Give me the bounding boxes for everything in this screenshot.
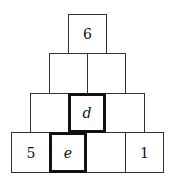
pyramid-cell-r2-c2 [87,53,126,94]
pyramid-cell-r4-c1: 5 [11,132,51,173]
pyramid-cell-top: 6 [68,14,107,54]
pyramid-cell-r4-c4: 1 [125,132,164,173]
pyramid-cell-r2-c1 [49,53,88,94]
pyramid-cell-e: e [49,132,87,173]
pyramid-cell-r3-c1 [30,93,69,133]
pyramid-cell-d: d [68,93,106,133]
pyramid-cell-r4-c3 [86,132,126,173]
pyramid-cell-r3-c3 [105,93,145,133]
